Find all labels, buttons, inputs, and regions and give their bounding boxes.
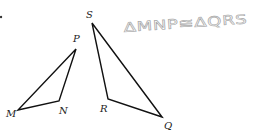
vertex-label-q: Q [164, 120, 172, 131]
stray-dot [0, 16, 2, 18]
vertex-label-p: P [72, 33, 80, 44]
congruent-triangles-diagram: M N P Q R S ΔMNP≅ΔQRS [0, 0, 256, 136]
vertex-label-s: S [86, 9, 93, 20]
vertex-label-r: R [99, 103, 108, 114]
triangle-mnp [18, 49, 76, 110]
vertex-label-m: M [5, 108, 17, 119]
handwritten-congruence-statement: ΔMNP≅ΔQRS [123, 11, 248, 35]
vertex-label-n: N [58, 105, 69, 116]
